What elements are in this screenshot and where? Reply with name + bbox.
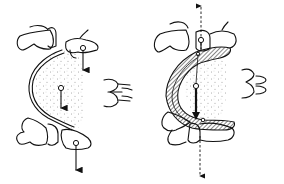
lower-tooth-premolar [48,124,58,145]
dental-diagram [0,0,284,184]
left-panel [17,26,132,170]
force-arrow-lower [73,140,78,170]
upper-tooth-molar [154,22,189,52]
upper-tooth-cusp [222,22,228,30]
lower-tooth-root [168,130,186,145]
diagram-svg [0,0,284,184]
side-occlusion-glyph [104,79,132,107]
side-occlusion-glyph [242,69,266,98]
lower-tooth-molar [17,118,48,145]
right-panel [154,6,266,176]
upper-tooth-right [210,31,236,48]
upper-tooth-cusp [80,30,88,38]
